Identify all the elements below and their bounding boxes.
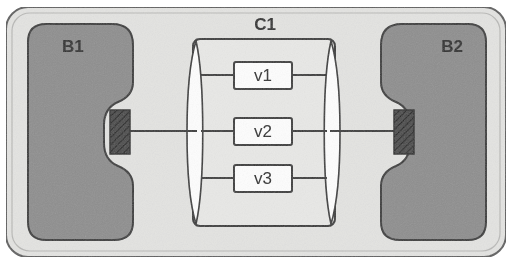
block-label-b1: B1 xyxy=(62,37,84,56)
hatched-terminal-left[interactable] xyxy=(110,110,130,154)
block-label-b2: B2 xyxy=(441,37,463,56)
block-diagram: v1 v2 v3 B1 B2 C1 xyxy=(0,0,514,273)
node-label-v2: v2 xyxy=(254,122,272,141)
node-label-v3: v3 xyxy=(254,169,272,188)
outer-enclosure-group: v1 v2 v3 B1 B2 C1 xyxy=(6,7,506,257)
node-label-v1: v1 xyxy=(254,66,272,85)
component-label-c1: C1 xyxy=(254,15,276,34)
diagram-canvas: v1 v2 v3 B1 B2 C1 xyxy=(0,0,514,273)
hatched-terminal-right[interactable] xyxy=(394,110,414,154)
